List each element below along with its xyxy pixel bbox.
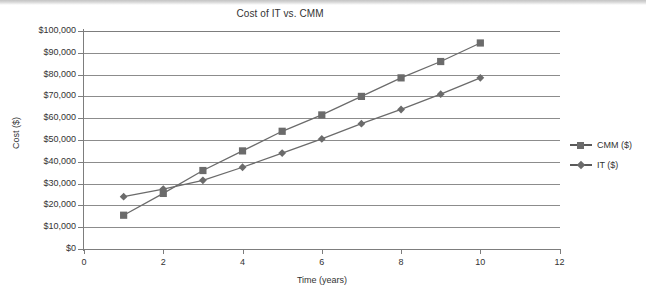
y-axis-tick: [78, 53, 84, 54]
y-axis-tick: [78, 31, 84, 32]
legend-diamond-marker-icon: [570, 160, 592, 170]
series-line: [124, 43, 481, 215]
x-axis-tick: [322, 249, 323, 254]
legend-label: IT ($): [597, 160, 618, 170]
data-point-marker: [318, 111, 325, 118]
x-axis-tick: [560, 249, 561, 254]
data-point-marker: [239, 163, 247, 171]
x-axis-tick: [480, 249, 481, 254]
data-point-marker: [437, 58, 444, 65]
x-axis-tick-label: 2: [148, 257, 178, 267]
chart-legend: CMM ($)IT ($): [570, 135, 646, 175]
data-point-marker: [199, 167, 206, 174]
x-axis-tick-label: 12: [545, 257, 575, 267]
data-point-marker: [476, 74, 484, 82]
y-axis-tick: [78, 227, 84, 228]
data-point-marker: [278, 149, 286, 157]
y-axis-tick: [78, 75, 84, 76]
y-axis-tick: [78, 162, 84, 163]
data-point-marker: [397, 106, 405, 114]
x-axis-tick: [243, 249, 244, 254]
y-axis-tick: [78, 96, 84, 97]
legend-item[interactable]: CMM ($): [570, 135, 646, 155]
x-axis-tick-label: 10: [465, 257, 495, 267]
series-layer: [0, 0, 646, 299]
legend-item[interactable]: IT ($): [570, 155, 646, 175]
x-axis-tick-label: 6: [307, 257, 337, 267]
y-axis-tick: [78, 184, 84, 185]
data-point-marker: [120, 193, 128, 201]
data-point-marker: [318, 135, 326, 143]
legend-square-marker-icon: [570, 140, 592, 150]
data-point-marker: [239, 147, 246, 154]
x-axis-tick: [84, 249, 85, 254]
series-line: [124, 78, 481, 197]
data-point-marker: [358, 120, 366, 128]
data-point-marker: [477, 39, 484, 46]
chart-container: Cost of IT vs. CMM $0$10,000$20,000$30,0…: [0, 0, 646, 299]
x-axis-tick-label: 4: [228, 257, 258, 267]
x-axis-tick-label: 0: [69, 257, 99, 267]
x-axis-title: Time (years): [84, 275, 560, 285]
x-axis-tick: [163, 249, 164, 254]
data-point-marker: [358, 93, 365, 100]
data-point-marker: [199, 176, 207, 184]
legend-label: CMM ($): [597, 140, 632, 150]
x-axis-tick-label: 8: [386, 257, 416, 267]
x-axis-tick: [401, 249, 402, 254]
data-point-marker: [397, 74, 404, 81]
data-point-marker: [437, 90, 445, 98]
y-axis-tick: [78, 205, 84, 206]
y-axis-tick: [78, 140, 84, 141]
data-point-marker: [279, 128, 286, 135]
data-point-marker: [120, 212, 127, 219]
y-axis-tick: [78, 118, 84, 119]
